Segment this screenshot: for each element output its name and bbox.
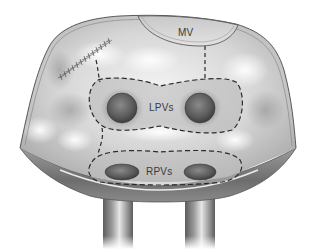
rpv-inferior-orifice — [184, 164, 216, 180]
label-right-pulmonary-veins: RPVs — [146, 166, 172, 177]
label-mitral-valve: MV — [178, 27, 193, 38]
left-atrium-diagram — [0, 0, 316, 249]
rpv-superior-orifice — [105, 164, 139, 180]
label-left-pulmonary-veins: LPVs — [149, 102, 174, 113]
lpv-inferior-orifice — [185, 93, 215, 123]
lpv-superior-orifice — [107, 93, 137, 123]
